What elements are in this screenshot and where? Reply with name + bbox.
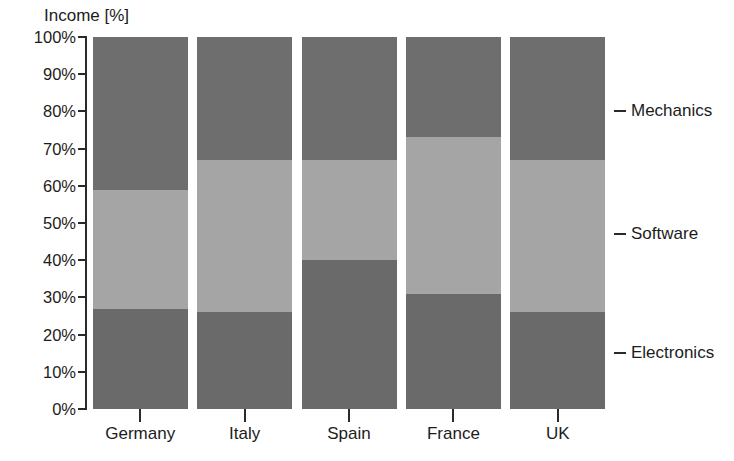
y-tick-mark [78, 334, 86, 336]
y-tick-label: 70% [43, 139, 76, 158]
y-tick-label: 60% [43, 176, 76, 195]
bar-segment-electronics [406, 294, 501, 409]
bar-group [93, 37, 188, 409]
y-tick-label: 50% [43, 214, 76, 233]
bar-segment-electronics [197, 312, 292, 409]
y-tick-label: 90% [43, 65, 76, 84]
series-label-electronics: Electronics [614, 343, 714, 363]
y-tick-mark [78, 185, 86, 187]
y-axis-cap [78, 36, 87, 38]
bar-segment-electronics [93, 309, 188, 409]
x-tick-label: Italy [229, 424, 260, 444]
bar-segment-software [510, 160, 605, 313]
bar-segment-mechanics [197, 37, 292, 160]
bar-group [197, 37, 292, 409]
bar-segment-software [406, 137, 501, 293]
bar-group [302, 37, 397, 409]
x-tick-mark [348, 409, 350, 422]
x-tick-mark [244, 409, 246, 422]
bar-segment-electronics [510, 312, 605, 409]
y-tick-mark [78, 73, 86, 75]
bar-segment-software [93, 190, 188, 309]
y-tick-label: 10% [43, 362, 76, 381]
y-tick-label: 20% [43, 325, 76, 344]
bar-segment-software [302, 160, 397, 260]
series-label-software: Software [614, 224, 698, 244]
series-label-text: Mechanics [631, 101, 712, 121]
y-tick-label: 100% [34, 28, 76, 47]
bar-segment-mechanics [406, 37, 501, 137]
bar-segment-software [197, 160, 292, 313]
series-label-text: Electronics [631, 343, 714, 363]
y-tick-label: 40% [43, 251, 76, 270]
stacked-bar-chart: Income [%] 100%90%80%70%60%50%40%30%20%1… [0, 0, 734, 461]
series-label-mechanics: Mechanics [614, 101, 712, 121]
y-tick-label: 80% [43, 102, 76, 121]
leader-dash-icon [614, 352, 626, 354]
x-tick-mark [139, 409, 141, 422]
y-tick-mark [78, 222, 86, 224]
plot-area [88, 37, 610, 409]
leader-dash-icon [614, 110, 626, 112]
y-axis-cap [78, 408, 87, 410]
bar-group [510, 37, 605, 409]
y-tick-mark [78, 259, 86, 261]
y-tick-mark [78, 110, 86, 112]
leader-dash-icon [614, 233, 626, 235]
x-tick-label: Germany [105, 424, 175, 444]
bar-segment-mechanics [302, 37, 397, 160]
y-tick-label: 30% [43, 288, 76, 307]
bar-group [406, 37, 501, 409]
x-tick-mark [557, 409, 559, 422]
x-tick-label: Spain [327, 424, 370, 444]
bar-segment-mechanics [510, 37, 605, 160]
bar-segment-electronics [302, 260, 397, 409]
x-tick-mark [452, 409, 454, 422]
x-tick-label: UK [546, 424, 570, 444]
y-tick-mark [78, 371, 86, 373]
y-axis-ticks: 100%90%80%70%60%50%40%30%20%10%0% [0, 0, 76, 461]
x-tick-label: France [427, 424, 480, 444]
y-tick-mark [78, 148, 86, 150]
series-label-text: Software [631, 224, 698, 244]
y-tick-label: 0% [52, 400, 76, 419]
bar-segment-mechanics [93, 37, 188, 190]
chart-title [150, 0, 450, 6]
y-tick-mark [78, 296, 86, 298]
